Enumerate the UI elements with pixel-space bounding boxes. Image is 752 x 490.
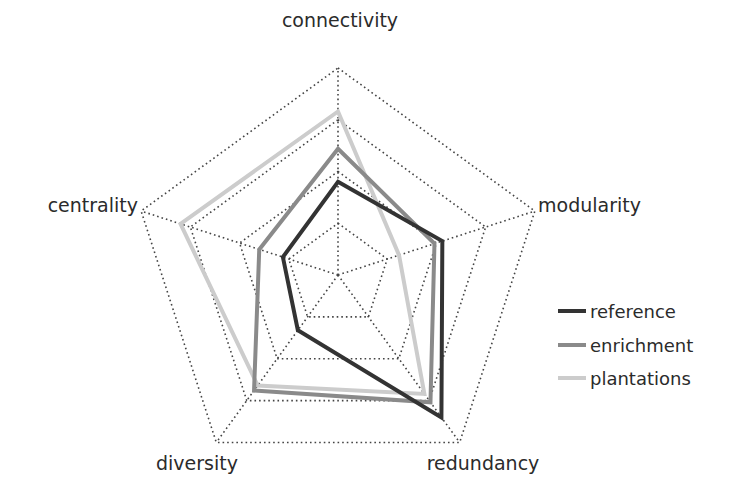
axis-label-connectivity: connectivity <box>282 9 398 31</box>
radar-chart: connectivity modularity redundancy diver… <box>0 0 752 490</box>
legend-item-enrichment: enrichment <box>558 335 693 356</box>
axis-label-modularity: modularity <box>538 194 641 216</box>
axis-labels: connectivity modularity redundancy diver… <box>48 9 641 474</box>
axis-label-diversity: diversity <box>156 452 238 474</box>
radar-grid <box>141 68 535 442</box>
radar-series <box>181 111 443 417</box>
axis-label-redundancy: redundancy <box>427 452 540 474</box>
legend-label-reference: reference <box>590 301 676 322</box>
legend-item-plantations: plantations <box>558 368 691 389</box>
legend: reference enrichment plantations <box>558 301 693 389</box>
series-plantations <box>181 111 425 393</box>
legend-item-reference: reference <box>558 301 676 322</box>
legend-label-enrichment: enrichment <box>590 335 693 356</box>
series-reference <box>283 182 442 417</box>
legend-label-plantations: plantations <box>590 368 691 389</box>
axis-label-centrality: centrality <box>48 194 138 216</box>
